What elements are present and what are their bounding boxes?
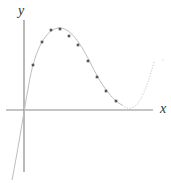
data-point bbox=[32, 64, 35, 67]
function-plot: y x bbox=[0, 0, 171, 183]
data-point bbox=[68, 35, 71, 38]
x-axis-label: x bbox=[159, 101, 167, 116]
data-point bbox=[87, 60, 90, 63]
curve-dotted bbox=[122, 62, 154, 108]
data-point bbox=[105, 90, 108, 93]
data-point bbox=[77, 44, 80, 47]
data-point bbox=[115, 100, 118, 103]
curve-solid bbox=[12, 28, 122, 180]
y-axis-label: y bbox=[16, 3, 25, 18]
data-point bbox=[96, 76, 99, 79]
data-point bbox=[50, 29, 53, 32]
data-point bbox=[59, 28, 62, 31]
data-point bbox=[41, 41, 44, 44]
stray-mark bbox=[162, 59, 163, 60]
